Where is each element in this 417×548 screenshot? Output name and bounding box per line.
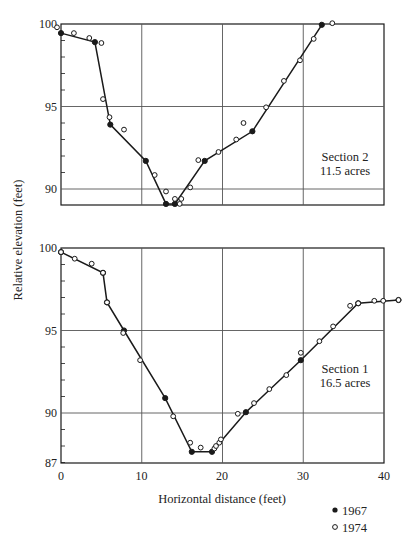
point-1974 — [188, 440, 193, 445]
point-1974 — [138, 358, 143, 363]
legend-label-1967: 1967 — [342, 504, 367, 518]
legend: 1967 1974 — [332, 504, 367, 535]
panel-section-1: 879095100 Section 1 16.5 acres — [39, 241, 401, 470]
point-1974 — [356, 301, 361, 306]
section-2-label: Section 2 — [322, 150, 369, 164]
y-tick-label: 100 — [39, 241, 57, 255]
point-1974 — [216, 150, 221, 155]
point-1967 — [298, 358, 303, 363]
point-1974 — [164, 189, 169, 194]
section-1-label: Section 1 — [322, 362, 369, 376]
point-1974 — [188, 185, 193, 190]
point-1974 — [330, 21, 335, 26]
point-1967 — [202, 158, 207, 163]
x-tick-20: 20 — [216, 469, 228, 483]
point-1974 — [173, 197, 178, 202]
grid-section-1 — [61, 248, 384, 463]
point-1974 — [89, 261, 94, 266]
legend-label-1974: 1974 — [342, 521, 368, 535]
point-1974 — [59, 250, 64, 255]
point-1974 — [105, 300, 110, 305]
point-1974 — [171, 414, 176, 419]
legend-marker-1967 — [332, 507, 337, 512]
point-1974 — [311, 37, 316, 42]
point-1974 — [121, 331, 126, 336]
point-1974 — [72, 256, 77, 261]
point-1974 — [235, 411, 240, 416]
point-1974 — [381, 298, 386, 303]
point-1974 — [298, 350, 303, 355]
x-tick-0: 0 — [58, 469, 64, 483]
x-tick-10: 10 — [136, 469, 148, 483]
point-1967 — [172, 201, 177, 206]
point-1974 — [372, 298, 377, 303]
y-tick-label: 95 — [45, 100, 57, 114]
x-axis-label: Horizontal distance (feet) — [158, 492, 286, 506]
point-1967 — [58, 30, 63, 35]
point-1974 — [177, 202, 182, 207]
y-tick-label: 90 — [45, 182, 57, 196]
point-1967 — [189, 449, 194, 454]
point-1974 — [267, 387, 272, 392]
point-1974 — [122, 127, 127, 132]
point-1967 — [319, 22, 324, 27]
point-1974 — [219, 437, 224, 442]
panel-section-2: 9095100 Section 2 11.5 acres — [39, 17, 384, 206]
x-tick-30: 30 — [297, 469, 309, 483]
point-1974 — [152, 173, 157, 178]
point-1967 — [92, 40, 97, 45]
point-1974 — [196, 158, 201, 163]
x-tick-40: 40 — [378, 469, 390, 483]
point-1967 — [108, 122, 113, 127]
point-1974 — [396, 298, 401, 303]
point-1974 — [55, 25, 60, 30]
point-1974 — [99, 41, 104, 46]
series-line-1967 — [61, 252, 399, 452]
point-1974 — [331, 324, 336, 329]
point-1974 — [101, 97, 106, 102]
point-1967 — [163, 396, 168, 401]
y-tick-label: 95 — [45, 324, 57, 338]
point-1974 — [101, 270, 106, 275]
point-1967 — [163, 201, 168, 206]
elevation-chart: 9095100 Section 2 11.5 acres 879095100 S… — [0, 0, 417, 548]
point-1974 — [198, 445, 203, 450]
point-1974 — [264, 105, 269, 110]
point-1974 — [252, 401, 257, 406]
data-section-2 — [55, 21, 335, 207]
series-line-1967 — [61, 25, 322, 204]
point-1974 — [87, 36, 92, 41]
point-1974 — [241, 121, 246, 126]
point-1974 — [72, 31, 77, 36]
data-section-1 — [58, 250, 401, 455]
point-1967 — [143, 158, 148, 163]
point-1974 — [298, 58, 303, 63]
point-1967 — [250, 129, 255, 134]
point-1974 — [348, 303, 353, 308]
point-1974 — [234, 137, 239, 142]
section-1-area: 16.5 acres — [320, 376, 371, 390]
y-tick-label: 90 — [45, 406, 57, 420]
point-1974 — [179, 197, 184, 202]
y-tick-label: 87 — [45, 456, 57, 470]
legend-marker-1974 — [333, 525, 338, 530]
section-2-area: 11.5 acres — [320, 164, 370, 178]
point-1974 — [107, 115, 112, 120]
y-tick-label: 100 — [39, 17, 57, 31]
point-1974 — [284, 373, 289, 378]
point-1967 — [243, 410, 248, 415]
y-axis-label: Relative elevation (feet) — [11, 180, 25, 301]
point-1974 — [282, 79, 287, 84]
point-1974 — [317, 339, 322, 344]
